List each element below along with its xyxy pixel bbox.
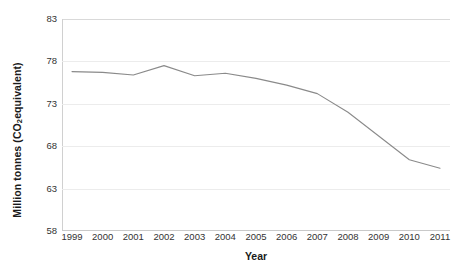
x-axis-tick-labels: 1999200020012002200320042005200620072008… [62, 232, 450, 248]
x-axis-title: Year [62, 250, 450, 262]
y-axis-tick-label: 73 [35, 99, 57, 109]
y-axis-tick-label: 68 [35, 141, 57, 151]
y-axis-title-after: equivalent) [11, 62, 23, 119]
y-axis-tick-label: 78 [35, 56, 57, 66]
plot-area [62, 19, 450, 231]
y-axis-title-subscript: 2 [15, 119, 24, 123]
series-polyline [72, 66, 440, 169]
data-series-line [62, 19, 450, 231]
y-axis-tick-label: 63 [35, 184, 57, 194]
x-axis-tick-label: 2011 [420, 232, 460, 242]
y-axis-title: Million tonnes (CO2 equivalent) [0, 0, 34, 280]
y-axis-title-before: Million tonnes (CO [11, 123, 23, 218]
line-chart: Million tonnes (CO2 equivalent) 83787368… [0, 0, 463, 280]
y-axis-tick-label: 83 [35, 14, 57, 24]
